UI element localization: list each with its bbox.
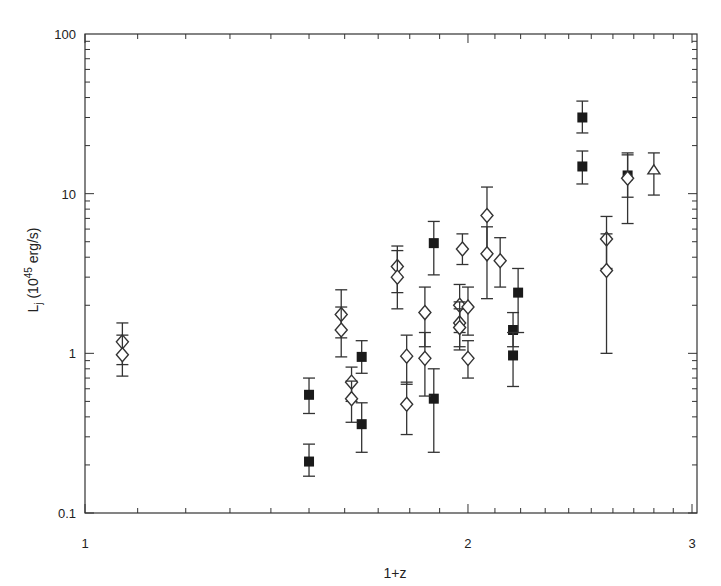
y-axis-label: Lj (1045 erg/s)	[23, 228, 44, 313]
data-point	[401, 382, 413, 434]
data-point	[512, 268, 524, 332]
data-point	[494, 238, 506, 287]
data-point	[391, 251, 403, 309]
data-point	[576, 101, 588, 133]
data-point	[601, 234, 613, 353]
data-point	[622, 153, 634, 224]
y-axis-tick-labels: 0.1110100	[54, 27, 76, 521]
x-axis-ticks	[85, 34, 692, 513]
data-point	[303, 444, 315, 476]
series-open-arrow-up	[648, 153, 660, 195]
data-point	[346, 381, 358, 422]
y-tick-label: 10	[62, 187, 76, 202]
data-point	[356, 403, 368, 452]
svg-text:Lj (1045 erg/s): Lj (1045 erg/s)	[23, 228, 44, 313]
x-tick-label: 2	[464, 536, 471, 551]
data-point	[428, 221, 440, 274]
data-point	[454, 309, 466, 350]
data-point	[428, 369, 440, 452]
data-series	[116, 101, 659, 476]
x-tick-label: 3	[688, 536, 695, 551]
data-point	[401, 335, 413, 384]
series-open-diamond	[116, 153, 633, 435]
x-axis-label: 1+z	[384, 565, 407, 581]
data-point	[576, 151, 588, 184]
scatter-chart: 123 0.1110100 1+z Lj (1045 erg/s)	[0, 0, 721, 586]
data-point	[356, 341, 368, 374]
data-point	[507, 333, 519, 387]
y-tick-label: 1	[69, 346, 76, 361]
y-tick-label: 100	[54, 27, 76, 42]
data-point	[648, 153, 660, 195]
y-tick-label: 0.1	[58, 506, 76, 521]
data-point	[456, 234, 468, 265]
x-axis-tick-labels: 123	[81, 536, 695, 551]
x-tick-label: 1	[81, 536, 88, 551]
data-point	[303, 378, 315, 413]
data-point	[481, 227, 493, 299]
data-point	[419, 333, 431, 397]
